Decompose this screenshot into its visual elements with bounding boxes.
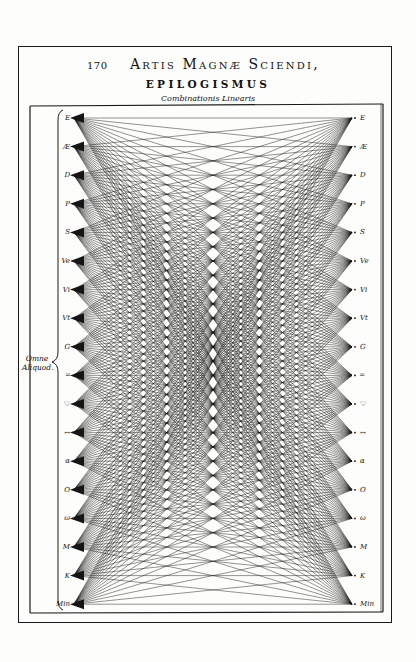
right-node-label: Ve (360, 257, 382, 265)
left-node-label: K (48, 572, 70, 580)
left-node-label: Vi (48, 286, 70, 294)
combination-lines (70, 113, 356, 609)
left-node-label: P (48, 200, 70, 208)
right-node-label: Æ (360, 143, 382, 151)
combination-diagram (0, 0, 416, 662)
right-node-label: ═ (360, 371, 382, 379)
left-node-label: Æ (48, 143, 70, 151)
right-node-label: Vt (360, 314, 382, 322)
right-node-label: ω (360, 514, 382, 522)
right-node-label: Vi (360, 286, 382, 294)
left-node-label: ═ (48, 371, 70, 379)
left-node-label: ↔ (48, 429, 70, 437)
left-node-label: Ve (48, 257, 70, 265)
right-node-label: S (360, 228, 382, 236)
right-node-label: M (360, 543, 382, 551)
brace-icon (52, 110, 63, 610)
left-node-label: Min (48, 600, 70, 608)
right-node-label: D (360, 171, 382, 179)
left-node-label: ω (48, 514, 70, 522)
right-node-label: Min (360, 600, 382, 608)
right-node-label: G (360, 343, 382, 351)
brace-label: Omne Aliquod. (22, 354, 52, 372)
left-node-label: O (48, 486, 70, 494)
left-node-label: S (48, 228, 70, 236)
left-node-label: Vt (48, 314, 70, 322)
left-node-label: α (48, 457, 70, 465)
right-node-label: α (360, 457, 382, 465)
right-node-label: O (360, 486, 382, 494)
right-node-label: P (360, 200, 382, 208)
brace-label-line1: Omne (22, 354, 52, 363)
left-node-label: ♡ (48, 400, 70, 408)
right-node-label: ♡ (360, 400, 382, 408)
left-node-label: M (48, 543, 70, 551)
left-node-label: D (48, 171, 70, 179)
book-page: 170 Artis Magnæ Sciendi, EPILOGISMUS Com… (0, 0, 416, 662)
left-node-label: G (48, 343, 70, 351)
right-node-label: ↔ (360, 429, 382, 437)
right-node-label: K (360, 572, 382, 580)
left-node-label: E (48, 114, 70, 122)
right-node-label: E (360, 114, 382, 122)
